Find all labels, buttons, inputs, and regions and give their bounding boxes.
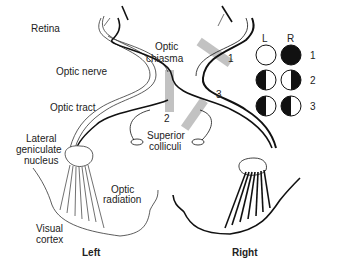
field-row1-left [256, 45, 276, 65]
label-superior-colliculi-1: Superior [147, 130, 185, 141]
label-right: Right [232, 247, 258, 258]
right-optic-radiation [225, 170, 270, 228]
label-lgn-2: geniculate [16, 144, 62, 155]
visual-pathway-diagram: Retina Optic chiasma Optic nerve Optic t… [0, 0, 338, 265]
label-optic-chiasma-2: chiasma [146, 53, 184, 64]
legend-row-1: 1 [310, 50, 316, 61]
right-retina-arrow3-icon [222, 6, 232, 22]
right-retina-arrow-icon [122, 6, 128, 20]
legend-row-3: 3 [310, 101, 316, 112]
right-eye-pathway [112, 18, 276, 148]
lesion-label-2: 2 [164, 113, 170, 124]
legend-header-right: R [287, 33, 294, 44]
label-visual-cortex-1: Visual [36, 223, 63, 234]
retina-arrows [104, 6, 232, 26]
label-optic-tract: Optic tract [50, 102, 96, 113]
legend-row-2: 2 [310, 75, 316, 86]
label-optic-nerve: Optic nerve [56, 66, 108, 77]
left-retina-arrow-icon [104, 18, 110, 26]
label-lgn-1: Lateral [26, 133, 57, 144]
left-eye-pathway [70, 16, 168, 148]
left-optic-radiation [60, 165, 104, 228]
right-lgn [239, 158, 267, 175]
label-visual-cortex-2: cortex [36, 234, 63, 245]
label-lgn-3: nucleus [24, 155, 58, 166]
label-superior-colliculi-2: colliculi [149, 141, 181, 152]
label-optic-radiation-2: radiation [103, 194, 141, 205]
visual-field-legend: L R 1 2 3 [256, 33, 316, 116]
lesion-band-3 [181, 98, 208, 131]
right-retina-arrow2-icon [218, 14, 224, 26]
field-row1-right [281, 45, 301, 65]
legend-header-left: L [262, 33, 268, 44]
lesion-label-3: 3 [216, 89, 222, 100]
left-lgn [65, 146, 93, 167]
label-retina: Retina [31, 23, 60, 34]
label-optic-chiasma-1: Optic [155, 41, 178, 52]
lesion-label-1: 1 [228, 53, 234, 64]
label-left: Left [82, 247, 101, 258]
right-cortex-outline [173, 178, 300, 234]
